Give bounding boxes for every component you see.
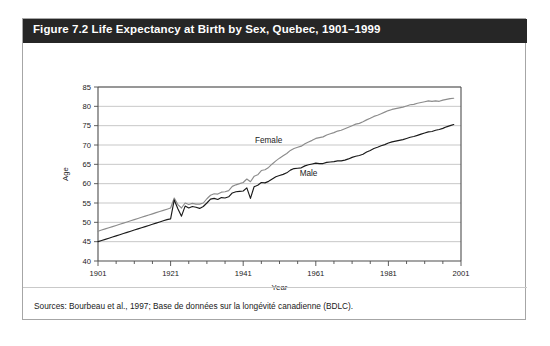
svg-text:50: 50	[83, 218, 91, 227]
data-series	[98, 98, 454, 241]
figure-page: Figure 7.2 Life Expectancy at Birth by S…	[0, 0, 550, 346]
svg-text:75: 75	[83, 121, 91, 130]
axis-lines	[98, 87, 461, 261]
x-axis-ticks: 190119211941196119812001	[90, 261, 470, 278]
svg-text:85: 85	[83, 83, 91, 92]
svg-text:1961: 1961	[307, 269, 324, 278]
figure-title: Figure 7.2 Life Expectancy at Birth by S…	[33, 23, 380, 35]
chart-area: 40455055606570758085 1901192119411961198…	[23, 43, 527, 291]
svg-text:55: 55	[83, 199, 91, 208]
svg-text:1901: 1901	[90, 269, 107, 278]
figure-title-bar: Figure 7.2 Life Expectancy at Birth by S…	[23, 19, 527, 43]
svg-text:Female: Female	[255, 136, 283, 145]
svg-text:Male: Male	[300, 169, 318, 178]
figure-frame: Figure 7.2 Life Expectancy at Birth by S…	[22, 18, 526, 320]
svg-text:40: 40	[83, 257, 91, 266]
svg-text:1921: 1921	[162, 269, 179, 278]
y-axis-title: Age	[61, 167, 70, 181]
line-chart: 40455055606570758085 1901192119411961198…	[23, 43, 527, 291]
svg-text:70: 70	[83, 141, 91, 150]
y-axis-ticks: 40455055606570758085	[83, 83, 98, 266]
svg-text:1981: 1981	[380, 269, 397, 278]
svg-text:45: 45	[83, 237, 91, 246]
svg-text:80: 80	[83, 102, 91, 111]
svg-text:2001: 2001	[453, 269, 470, 278]
source-divider	[23, 287, 527, 288]
svg-text:1941: 1941	[235, 269, 252, 278]
svg-text:60: 60	[83, 179, 91, 188]
source-note: Sources: Bourbeau et al., 1997; Base de …	[34, 301, 353, 311]
svg-text:65: 65	[83, 160, 91, 169]
gridlines	[98, 87, 461, 242]
